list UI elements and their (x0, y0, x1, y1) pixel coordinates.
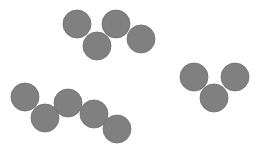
right-group (180, 63, 249, 112)
gray-circle (102, 10, 130, 38)
gray-circle (180, 63, 208, 91)
gray-circle (221, 63, 249, 91)
bottom-left-group (11, 83, 131, 143)
gray-circle (200, 84, 228, 112)
gray-circle (54, 89, 82, 117)
gray-circle (11, 83, 39, 111)
diagram-canvas (0, 0, 259, 154)
gray-circle (63, 10, 91, 38)
gray-circle (103, 115, 131, 143)
gray-circle (127, 25, 155, 53)
gray-circle (83, 32, 111, 60)
circle-groups (0, 0, 259, 154)
top-group (63, 10, 155, 60)
